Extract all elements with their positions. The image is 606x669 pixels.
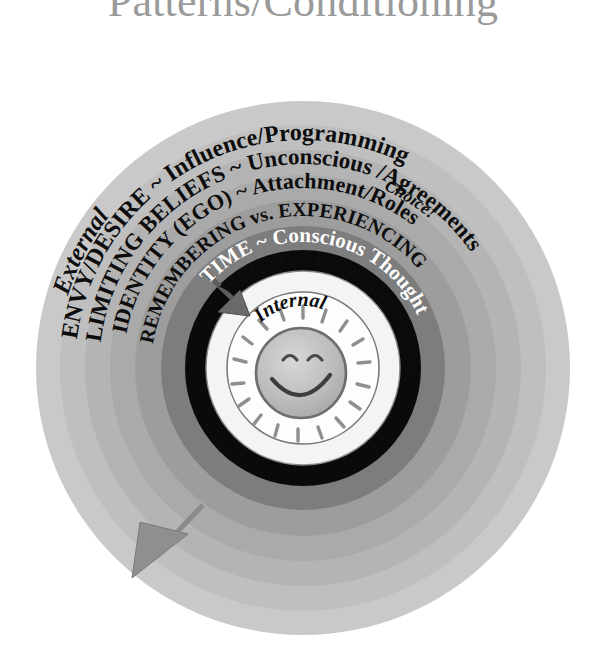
- rings-svg: External ENVY/DESIRE ~ Influence/Program…: [0, 0, 606, 669]
- diagram-canvas: Patterns/Conditioning: [0, 0, 606, 669]
